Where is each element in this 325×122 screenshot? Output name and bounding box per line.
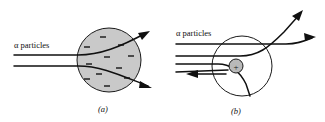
- panel-a-arrowhead-lower: [139, 81, 152, 88]
- panel-b-caption: (b): [231, 106, 241, 116]
- panel-b-arrowhead-top: [304, 33, 316, 41]
- panel-b: + α particles (b): [176, 10, 316, 116]
- panel-a-caption: (a): [98, 104, 108, 114]
- panel-b-trajectory-top: [176, 38, 312, 44]
- panel-a-arrowhead-upper: [138, 31, 150, 40]
- panel-a-alpha-label: α particles: [14, 40, 49, 50]
- panel-b-nucleus-charge-symbol: +: [233, 62, 238, 72]
- panel-b-arrowhead-deflected: [292, 10, 303, 21]
- panel-a-sphere: [77, 28, 141, 92]
- rutherford-scattering-figure: α particles (a): [0, 0, 325, 122]
- panel-b-trajectory-incoming-headon: [176, 70, 228, 72]
- panel-b-alpha-trajectories: [176, 14, 312, 96]
- panel-b-alpha-label: α particles: [176, 28, 211, 38]
- panel-a: α particles (a): [14, 28, 152, 114]
- figure-container: α particles (a): [0, 0, 325, 122]
